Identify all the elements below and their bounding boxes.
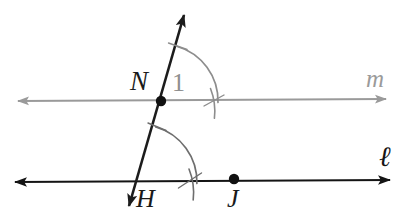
angle-1-arc-start-tick <box>169 43 188 50</box>
point-N-dot <box>156 96 166 106</box>
point-H-label: H <box>136 186 155 212</box>
geometry-canvas <box>0 0 403 223</box>
angle-1-label: 1 <box>172 70 185 96</box>
line-m-label: m <box>366 66 384 91</box>
point-J-dot <box>229 174 239 184</box>
line-m <box>18 99 386 101</box>
angle-1-arc-tick <box>211 89 215 119</box>
line-l-label: ℓ <box>379 143 391 171</box>
angle-H-arc-tick <box>189 169 194 200</box>
transversal-line <box>129 15 184 206</box>
point-N-label: N <box>130 68 148 95</box>
geometry-figure: N 1 m ℓ H J <box>0 0 403 223</box>
line-l <box>15 180 390 182</box>
point-J-label: J <box>227 186 239 212</box>
